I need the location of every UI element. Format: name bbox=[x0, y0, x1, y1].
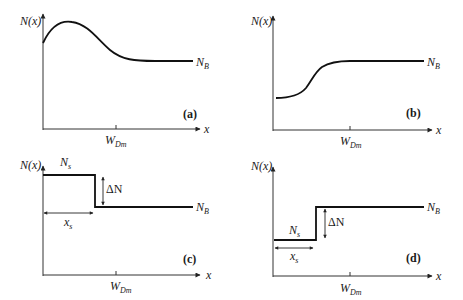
delta-n-label: ΔN bbox=[328, 215, 345, 229]
wdm-label: WDm bbox=[105, 133, 127, 149]
y-axis-label: N(x) bbox=[19, 158, 41, 172]
wdm-label: WDm bbox=[340, 134, 362, 150]
ns-label: Ns bbox=[288, 223, 300, 239]
x-axis-label: x bbox=[435, 269, 442, 283]
nb-label: NB bbox=[195, 200, 209, 216]
nb-label: NB bbox=[195, 55, 209, 71]
xs-label: xs bbox=[289, 249, 298, 265]
y-axis-label: N(x) bbox=[19, 14, 41, 28]
panel-label: (a) bbox=[183, 107, 197, 121]
panel-d: N(x) x WDm NB Ns ΔN xs (d) bbox=[250, 159, 442, 297]
doping-profile-figure: N(x) x WDm NB (a) N(x) x WDm NB (b) N(x)… bbox=[0, 0, 463, 300]
wdm-label: WDm bbox=[340, 281, 362, 297]
nb-label: NB bbox=[426, 55, 440, 71]
ns-label: Ns bbox=[59, 155, 71, 171]
panel-label: (b) bbox=[406, 106, 421, 120]
panel-b: N(x) x WDm NB (b) bbox=[250, 14, 442, 150]
nb-label: NB bbox=[426, 200, 440, 216]
y-axis-label: N(x) bbox=[250, 14, 272, 28]
panel-c: N(x) x WDm NB Ns ΔN xs (c) bbox=[19, 155, 212, 295]
x-axis-label: x bbox=[203, 122, 210, 136]
delta-n-label: ΔN bbox=[106, 182, 123, 196]
panel-label: (c) bbox=[183, 252, 196, 266]
profile-curve bbox=[43, 22, 193, 61]
panel-label: (d) bbox=[406, 251, 421, 265]
x-axis-label: x bbox=[435, 123, 442, 137]
profile-curve bbox=[276, 61, 424, 98]
y-axis-label: N(x) bbox=[250, 159, 272, 173]
wdm-label: WDm bbox=[110, 279, 132, 295]
xs-label: xs bbox=[63, 215, 72, 231]
x-axis-label: x bbox=[205, 268, 212, 282]
panel-a: N(x) x WDm NB (a) bbox=[19, 14, 210, 149]
